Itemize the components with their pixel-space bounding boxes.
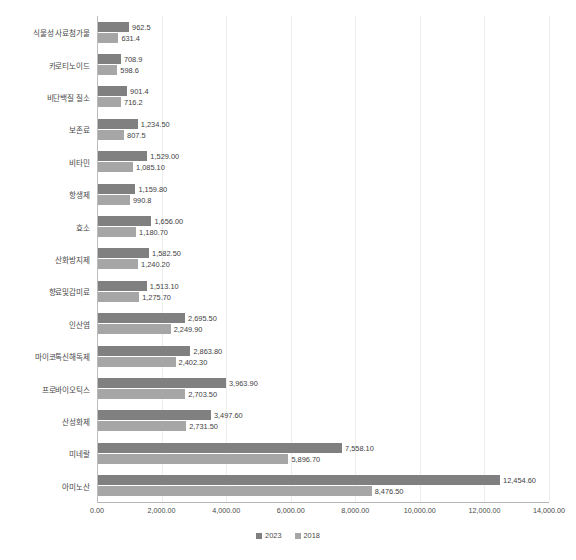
x-tick-label: 2,000.00 <box>148 506 176 515</box>
legend-label: 2018 <box>304 531 320 540</box>
x-tick-label: 8,000.00 <box>341 506 369 515</box>
chart-category-row: 보존료1,234.50807.5 <box>97 113 549 145</box>
legend-item[interactable]: 2018 <box>295 531 320 540</box>
bar-value-label: 1,513.10 <box>150 281 179 290</box>
bar-value-label: 2,249.90 <box>174 325 203 334</box>
bar-2018: 2,703.50 <box>98 389 185 399</box>
category-label: 항생제 <box>69 189 90 200</box>
bar-value-label: 807.5 <box>127 130 146 139</box>
bar-value-label: 8,476.50 <box>375 487 404 496</box>
bar-2023: 1,513.10 <box>98 281 147 291</box>
chart-category-row: 산성화제3,497.602,731.50 <box>97 405 549 437</box>
category-label: 산성화제 <box>62 415 90 426</box>
category-label: 비타민 <box>69 156 90 167</box>
x-axis-line <box>97 502 549 503</box>
bar-value-label: 1,656.00 <box>154 217 183 226</box>
x-tick-label: 14,000.00 <box>533 506 565 515</box>
bar-2018: 2,249.90 <box>98 324 171 334</box>
bar-2023: 12,454.60 <box>98 475 500 485</box>
bar-2018: 5,896.70 <box>98 454 288 464</box>
category-label: 카로티노이드 <box>49 59 90 70</box>
gridline <box>549 16 550 502</box>
bar-value-label: 1,234.50 <box>141 119 170 128</box>
legend-swatch-icon <box>295 533 301 539</box>
bar-value-label: 901.4 <box>130 87 149 96</box>
chart-category-row: 아미노산12,454.608,476.50 <box>97 470 549 502</box>
bar-value-label: 7,558.10 <box>345 443 374 452</box>
bar-value-label: 2,703.50 <box>188 390 217 399</box>
bar-2018: 631.4 <box>98 33 118 43</box>
chart-category-row: 인산염2,695.502,249.90 <box>97 308 549 340</box>
bar-value-label: 1,275.70 <box>142 292 171 301</box>
bar-value-label: 5,896.70 <box>291 454 320 463</box>
bar-2023: 1,234.50 <box>98 119 138 129</box>
x-tick-label: 0.00 <box>90 506 104 515</box>
chart-category-row: 항생제1,159.80990.8 <box>97 178 549 210</box>
bar-chart: 식물성 사료첨가물962.5631.4카로티노이드708.9598.6비단백질 … <box>0 0 576 560</box>
bar-2023: 3,963.90 <box>98 378 226 388</box>
bar-value-label: 1,240.20 <box>141 260 170 269</box>
bar-2023: 962.5 <box>98 22 129 32</box>
legend-label: 2023 <box>265 531 281 540</box>
bar-value-label: 1,159.80 <box>138 184 167 193</box>
x-tick-label: 10,000.00 <box>404 506 436 515</box>
category-label: 프로바이오틱스 <box>42 383 90 394</box>
bar-value-label: 598.6 <box>120 66 139 75</box>
legend-swatch-icon <box>256 533 262 539</box>
chart-category-row: 효소1,656.001,180.70 <box>97 210 549 242</box>
bar-value-label: 2,402.30 <box>179 357 208 366</box>
legend-item[interactable]: 2023 <box>256 531 281 540</box>
bar-2023: 2,695.50 <box>98 313 185 323</box>
bar-2023: 901.4 <box>98 86 127 96</box>
bar-2023: 708.9 <box>98 54 121 64</box>
bar-2018: 1,085.10 <box>98 162 133 172</box>
bar-value-label: 716.2 <box>124 98 143 107</box>
bars-layer: 식물성 사료첨가물962.5631.4카로티노이드708.9598.6비단백질 … <box>97 16 549 502</box>
chart-category-row: 비단백질 질소901.4716.2 <box>97 81 549 113</box>
bar-2018: 2,402.30 <box>98 357 176 367</box>
category-label: 미네랄 <box>69 448 90 459</box>
chart-category-row: 카로티노이드708.9598.6 <box>97 48 549 80</box>
bar-2023: 3,497.60 <box>98 410 211 420</box>
x-axis-tick-labels: 0.002,000.004,000.006,000.008,000.0010,0… <box>97 506 549 522</box>
bar-2023: 1,529.00 <box>98 151 147 161</box>
bar-value-label: 2,695.50 <box>188 314 217 323</box>
category-label: 아미노산 <box>62 480 90 491</box>
bar-value-label: 1,582.50 <box>152 249 181 258</box>
chart-category-row: 향료및감미료1,513.101,275.70 <box>97 275 549 307</box>
bar-2023: 1,582.50 <box>98 248 149 258</box>
bar-2018: 1,180.70 <box>98 227 136 237</box>
bar-2018: 1,275.70 <box>98 292 139 302</box>
bar-2023: 1,159.80 <box>98 184 135 194</box>
chart-legend: 20232018 <box>0 531 576 540</box>
bar-2018: 990.8 <box>98 195 130 205</box>
chart-category-row: 프로바이오틱스3,963.902,703.50 <box>97 372 549 404</box>
category-label: 식물성 사료첨가물 <box>33 27 90 38</box>
bar-value-label: 2,731.50 <box>189 422 218 431</box>
bar-value-label: 1,529.00 <box>150 152 179 161</box>
chart-category-row: 산화방지제1,582.501,240.20 <box>97 243 549 275</box>
bar-value-label: 1,085.10 <box>136 163 165 172</box>
category-label: 인산염 <box>69 318 90 329</box>
bar-value-label: 631.4 <box>121 33 140 42</box>
category-label: 보존료 <box>69 124 90 135</box>
bar-2018: 8,476.50 <box>98 486 372 496</box>
bar-value-label: 3,497.60 <box>214 411 243 420</box>
bar-2018: 2,731.50 <box>98 421 186 431</box>
category-label: 마이코톡신해독제 <box>35 351 90 362</box>
x-tick-label: 6,000.00 <box>277 506 305 515</box>
bar-value-label: 990.8 <box>133 195 152 204</box>
bar-value-label: 12,454.60 <box>503 476 536 485</box>
chart-category-row: 비타민1,529.001,085.10 <box>97 146 549 178</box>
bar-2023: 2,863.80 <box>98 346 190 356</box>
category-label: 산화방지제 <box>55 253 90 264</box>
chart-category-row: 식물성 사료첨가물962.5631.4 <box>97 16 549 48</box>
category-label: 비단백질 질소 <box>47 91 90 102</box>
bar-2018: 807.5 <box>98 130 124 140</box>
bar-2023: 1,656.00 <box>98 216 151 226</box>
bar-2018: 1,240.20 <box>98 259 138 269</box>
bar-value-label: 962.5 <box>132 22 151 31</box>
bar-2018: 716.2 <box>98 97 121 107</box>
x-tick-label: 4,000.00 <box>212 506 240 515</box>
chart-category-row: 미네랄7,558.105,896.70 <box>97 437 549 469</box>
